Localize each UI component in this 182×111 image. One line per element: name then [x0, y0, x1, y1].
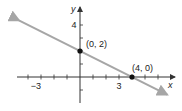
point-label-0-2: (0, 2) [86, 39, 107, 49]
line-graph: x y −3 3 4 (0, 2) (4, 0) [0, 0, 182, 111]
y-tick-label-4: 4 [71, 20, 76, 30]
point-label-4-0: (4, 0) [132, 63, 153, 73]
x-tick-label-3: 3 [116, 81, 121, 91]
x-tick-label-neg3: −3 [31, 81, 41, 91]
point-x-intercept [129, 74, 134, 79]
point-y-intercept [77, 48, 82, 53]
y-axis-label: y [70, 4, 76, 14]
x-axis-label: x [167, 80, 173, 90]
